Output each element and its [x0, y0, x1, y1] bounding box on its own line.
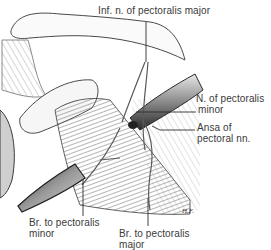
label-line-2: pectoral nn. [197, 133, 250, 144]
label-line-1: Br. to pectoralis [119, 228, 190, 239]
label-n-pectoralis-minor: N. of pectoralis minor [196, 93, 264, 115]
humerus-shape [0, 110, 14, 198]
label-line-2: minor [196, 104, 264, 115]
label-line-2: major [119, 239, 190, 250]
artist-signature: H.F. [181, 207, 194, 215]
label-line-1: N. of pectoralis [196, 93, 264, 104]
label-line-1: Ansa of [197, 122, 250, 133]
label-line-2: minor [29, 228, 100, 239]
label-br-pectoralis-minor: Br. to pectoralis minor [29, 217, 100, 239]
pectoralis-minor-muscle [55, 92, 200, 214]
clavicle-shape [11, 13, 185, 60]
label-inf-n-pectoralis-major: Inf. n. of pectoralis major [98, 5, 210, 16]
label-ansa-pectoral-nn: Ansa of pectoral nn. [197, 122, 250, 144]
label-line-1: Br. to pectoralis [29, 217, 100, 228]
label-text: Inf. n. of pectoralis major [98, 5, 210, 16]
label-br-pectoralis-major: Br. to pectoralis major [119, 228, 190, 250]
